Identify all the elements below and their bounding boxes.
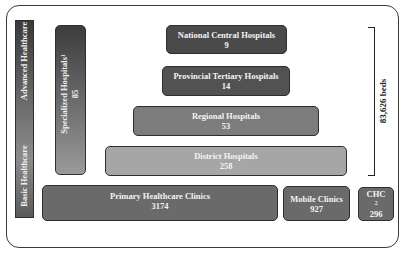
regional-hospitals-box: Regional Hospitals 53 (133, 106, 319, 136)
basic-healthcare-label: Basic Healthcare (18, 138, 30, 214)
tier-count: 9 (224, 40, 228, 50)
specialized-hospitals-count: 85 (70, 34, 81, 154)
tier-count: 927 (310, 204, 323, 214)
tier-count: 296 (370, 209, 383, 219)
specialized-hospitals-text: Specialized Hospitals1 85 (59, 34, 83, 154)
tier-label: Regional Hospitals (192, 111, 260, 121)
chc-box: CHC 2296 (358, 187, 394, 221)
primary-healthcare-clinics-box: Primary Healthcare Clinics 3174 (42, 185, 278, 221)
tier-count: 258 (220, 161, 233, 171)
beds-bracket (368, 27, 375, 176)
tier-count: 14 (222, 81, 231, 91)
tier-label: District Hospitals (194, 151, 258, 161)
tier-label: Mobile Clinics (290, 194, 343, 204)
tier-label: CHC (367, 189, 386, 199)
specialized-hospitals-label: Specialized Hospitals (59, 57, 69, 134)
national-central-hospitals-box: National Central Hospitals 9 (166, 25, 287, 54)
footnote-marker: 1 (60, 54, 66, 57)
tier-label: Provincial Tertiary Hospitals (173, 71, 278, 81)
provincial-tertiary-hospitals-box: Provincial Tertiary Hospitals 14 (162, 66, 290, 96)
district-hospitals-box: District Hospitals 258 (105, 146, 347, 176)
tier-count: 3174 (152, 201, 169, 211)
mobile-clinics-box: Mobile Clinics 927 (283, 186, 350, 221)
tier-label: Primary Healthcare Clinics (110, 191, 210, 201)
advanced-healthcare-label: Advanced Healthcare (18, 13, 30, 109)
beds-total-label: 83,626 beds (377, 71, 389, 131)
tier-label: National Central Hospitals (178, 30, 275, 40)
tier-count: 53 (222, 121, 231, 131)
footnote-marker: 2 (375, 200, 378, 206)
